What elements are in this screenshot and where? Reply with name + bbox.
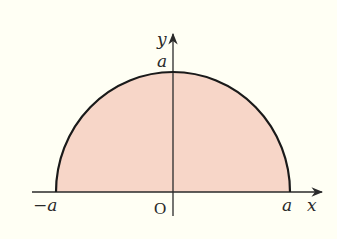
semicircle-diagram: y a −a O a x: [0, 0, 337, 239]
x-axis-label: x: [307, 195, 317, 215]
y-tick-a-label: a: [157, 51, 167, 71]
x-pos-tick-label: a: [282, 195, 292, 215]
y-axis-label: y: [156, 29, 167, 49]
x-neg-tick-label: −a: [33, 195, 57, 215]
origin-label: O: [154, 199, 166, 218]
